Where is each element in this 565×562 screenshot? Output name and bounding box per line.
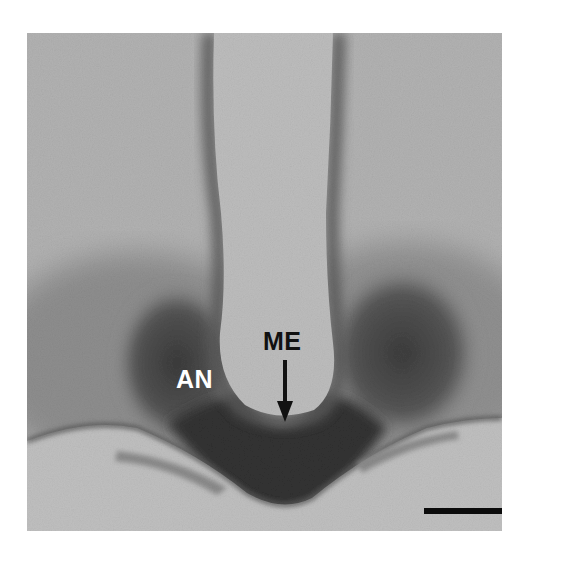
tissue-section xyxy=(27,33,502,531)
micrograph-panel: AN ME xyxy=(27,33,502,531)
scale-bar xyxy=(424,508,502,514)
label-arcuate-nucleus: AN xyxy=(176,367,213,392)
label-median-eminence: ME xyxy=(263,329,302,354)
